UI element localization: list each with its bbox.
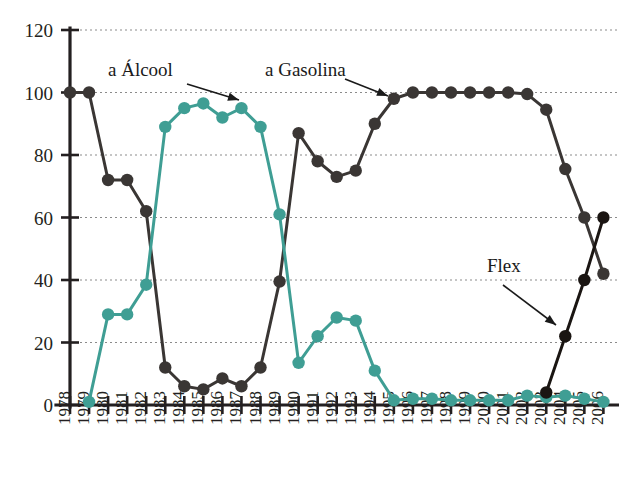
data-point [445,394,457,406]
data-point [121,174,133,186]
data-point [578,393,590,405]
data-point [197,383,209,395]
data-point [140,278,152,290]
series-line [89,103,603,401]
x-tick-label-1981: 1981 [112,391,131,425]
x-tick-label-1984: 1984 [169,391,188,426]
data-point [559,330,571,342]
x-tick-label-1988: 1988 [246,391,265,425]
data-point [483,394,495,406]
x-tick-label-1989: 1989 [265,391,284,425]
data-point [216,372,228,384]
data-point [292,127,304,139]
data-point [597,396,609,408]
data-point [578,211,590,223]
data-point [559,389,571,401]
annotation-label-a-gasolina: a Gasolina [265,59,346,80]
data-point [273,208,285,220]
y-tick-label-60: 60 [34,208,53,229]
data-point [521,88,533,100]
data-point [254,361,266,373]
data-point [426,86,438,98]
data-point [216,111,228,123]
data-point [102,174,114,186]
data-point [388,394,400,406]
data-point [83,86,95,98]
annotation-label-a-lcool: a Álcool [108,59,173,80]
data-point [578,274,590,286]
data-point [521,389,533,401]
data-point [331,171,343,183]
data-point [502,86,514,98]
x-tick-label-1991: 1991 [303,391,322,425]
data-point [140,205,152,217]
annotation-arrowhead [545,315,556,325]
data-point [540,386,552,398]
series-line [546,218,603,393]
data-point [445,86,457,98]
y-tick-label-0: 0 [44,395,54,416]
data-point [121,308,133,320]
data-point [254,121,266,133]
data-point [178,102,190,114]
data-point [350,314,362,326]
x-tick-label-1978: 1978 [55,391,74,425]
data-point [178,380,190,392]
data-point [311,330,323,342]
x-tick-label-1990: 1990 [284,391,303,425]
data-point [597,268,609,280]
x-tick-label-1993: 1993 [341,391,360,425]
data-point [331,311,343,323]
data-point [407,86,419,98]
data-point [483,86,495,98]
series-flex [540,211,610,398]
x-tick-label-1982: 1982 [131,391,150,425]
x-tick-label-1992: 1992 [322,391,341,425]
annotation-label-flex: Flex [487,255,521,276]
line-chart-plot: 020406080100120 197819791980198119821983… [0,0,639,480]
data-point [197,97,209,109]
x-tick-label-1983: 1983 [150,391,169,425]
y-tick-label-40: 40 [34,270,53,291]
data-point [407,393,419,405]
data-point [83,396,95,408]
data-point [559,163,571,175]
data-point [540,103,552,115]
data-point [102,308,114,320]
series-a-gasolina [64,86,610,395]
data-point [235,380,247,392]
data-point [235,102,247,114]
y-axis: 020406080100120 [25,20,80,416]
data-point [426,393,438,405]
x-tick-label-1985: 1985 [188,391,207,425]
data-point [597,211,609,223]
x-tick-label-1980: 1980 [93,391,112,425]
data-point [369,118,381,130]
y-tick-label-80: 80 [34,145,53,166]
y-tick-label-120: 120 [25,20,54,41]
chart-container: 020406080100120 197819791980198119821983… [0,0,639,480]
data-point [273,275,285,287]
data-point [64,86,76,98]
annotations: a Álcoola GasolinaFlex [108,59,556,325]
data-point [311,155,323,167]
x-tick-label-1987: 1987 [226,391,245,426]
data-point [502,394,514,406]
x-tick-label-1994: 1994 [360,391,379,426]
annotation-arrowhead [227,93,239,101]
data-point [292,357,304,369]
data-point [159,121,171,133]
data-series [64,86,610,408]
data-point [464,86,476,98]
series-a-lcool [83,97,610,408]
data-point [464,394,476,406]
data-point [350,164,362,176]
x-tick-label-1986: 1986 [207,391,226,425]
data-point [369,364,381,376]
data-point [159,361,171,373]
data-point [388,93,400,105]
y-tick-label-20: 20 [34,333,53,354]
y-tick-label-100: 100 [25,83,54,104]
